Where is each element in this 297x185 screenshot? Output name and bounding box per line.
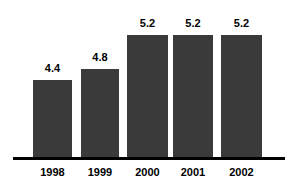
bar-2002	[221, 35, 262, 157]
value-label-2002: 5.2	[221, 17, 262, 29]
bar-1999	[81, 69, 119, 157]
x-tick-label-1998: 1998	[33, 166, 72, 178]
bar-2001	[173, 35, 213, 157]
value-label-2001: 5.2	[173, 17, 213, 29]
x-tick-label-2002: 2002	[221, 166, 262, 178]
x-tick-label-2001: 2001	[173, 166, 213, 178]
value-label-1999: 4.8	[81, 51, 119, 63]
plot-area: 4.4 4.8 5.2 5.2 5.2 1998 1999 2000 2001	[0, 0, 297, 185]
bar-2000	[127, 35, 168, 157]
x-tick-label-1999: 1999	[81, 166, 119, 178]
x-axis-line	[13, 157, 285, 160]
value-label-2000: 5.2	[127, 17, 168, 29]
bar-chart: 4.4 4.8 5.2 5.2 5.2 1998 1999 2000 2001	[0, 0, 297, 185]
x-tick-label-2000: 2000	[127, 166, 168, 178]
value-label-1998: 4.4	[33, 62, 72, 74]
bar-1998	[33, 80, 72, 157]
